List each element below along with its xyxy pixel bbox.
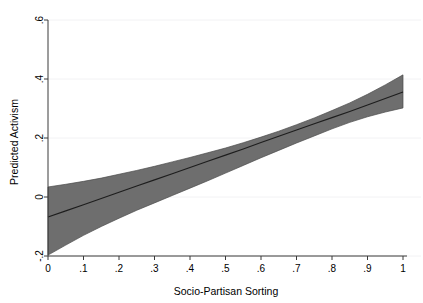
x-tick-label: 0 <box>45 263 51 274</box>
x-tick-label: .1 <box>79 263 88 274</box>
y-tick-label: .4 <box>34 74 45 83</box>
y-tick-label: .2 <box>34 133 45 142</box>
x-tick-label: .7 <box>292 263 301 274</box>
x-tick-label: .8 <box>328 263 337 274</box>
y-tick-label: .6 <box>34 15 45 24</box>
predicted-activism-chart: 0.1.2.3.4.5.6.7.8.91 -.20.2.4.6 Socio-Pa… <box>0 0 423 303</box>
y-tick-label: -.2 <box>34 250 45 262</box>
x-tick-label: .5 <box>221 263 230 274</box>
y-axis-title: Predicted Activism <box>8 99 20 185</box>
y-tick-label: 0 <box>34 194 45 200</box>
x-tick-label: .3 <box>150 263 159 274</box>
x-tick-label: .2 <box>115 263 124 274</box>
x-tick-label: .4 <box>186 263 195 274</box>
x-tick-label: 1 <box>400 263 406 274</box>
x-tick-label: .6 <box>257 263 266 274</box>
x-axis-title: Socio-Partisan Sorting <box>174 285 279 297</box>
x-tick-label: .9 <box>363 263 372 274</box>
